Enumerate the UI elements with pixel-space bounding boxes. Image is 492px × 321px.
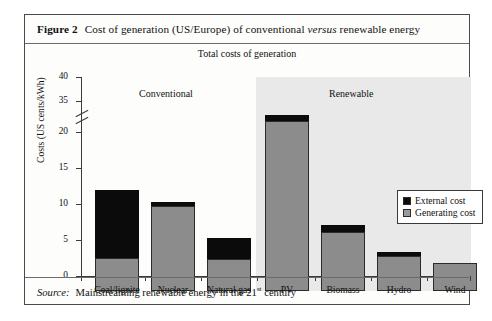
legend-label-generating-cost: Generating cost — [415, 207, 475, 219]
y-tick-label-5: 5 — [63, 234, 68, 244]
bar-natural-gas — [207, 238, 251, 291]
bar-segment-generating — [265, 121, 309, 291]
y-tick-label-20: 20 — [59, 126, 68, 136]
x-label-biomass: Biomass — [326, 284, 359, 295]
group-label-renewable: Renewable — [329, 88, 373, 99]
y-tick-label-35: 35 — [59, 95, 68, 105]
legend-swatch-generating-icon — [403, 209, 411, 217]
y-tick-label-0: 0 — [63, 270, 68, 280]
bar-segment-generating — [151, 206, 195, 291]
y-tick-10: 10 — [76, 204, 81, 205]
y-axis-title: Costs (US cents/kWh) — [35, 77, 46, 163]
y-tick-label-15: 15 — [59, 162, 68, 172]
legend-item-generating-cost: Generating cost — [403, 207, 475, 219]
bar-segment-generating — [321, 232, 365, 291]
bar-segment-external — [207, 238, 251, 260]
x-tick-7 — [470, 276, 471, 281]
bar-coal-lignite — [95, 190, 139, 292]
bar-segment-external — [265, 115, 309, 121]
chart-area: Total costs of generation 0 5 10 15 20 3… — [25, 44, 469, 276]
bar-segment-external — [95, 190, 139, 258]
bar-segment-external — [377, 252, 421, 256]
caption-text-post: renewable energy — [337, 23, 421, 35]
bar-segment-external — [321, 225, 365, 232]
chart-title: Total costs of generation — [25, 48, 469, 59]
legend-swatch-external-icon — [403, 197, 411, 205]
caption-text-emphasis: versus — [308, 23, 337, 35]
x-label-wind: Wind — [445, 284, 466, 295]
x-label-hydro: Hydro — [387, 284, 412, 295]
figure-caption: Figure 2Cost of generation (US/Europe) o… — [37, 23, 461, 35]
source-divider — [25, 277, 469, 278]
bar-biomass — [321, 225, 365, 291]
bar-segment-external — [151, 202, 195, 206]
y-axis-line — [81, 77, 82, 276]
y-tick-5: 5 — [76, 240, 81, 241]
y-axis-break-icon — [75, 110, 89, 124]
legend-label-external-cost: External cost — [415, 195, 465, 207]
legend-item-external-cost: External cost — [403, 195, 475, 207]
y-tick-label-10: 10 — [59, 198, 68, 208]
figure-label: Figure 2 — [37, 23, 78, 35]
bar-pv — [265, 115, 309, 291]
caption-text-pre: Cost of generation (US/Europe) of conven… — [85, 23, 308, 35]
y-tick-20: 20 — [76, 132, 81, 133]
chart-legend: External cost Generating cost — [397, 190, 483, 224]
y-tick-label-40: 40 — [59, 71, 68, 81]
group-label-conventional: Conventional — [139, 88, 193, 99]
y-tick-15: 15 — [76, 168, 81, 169]
plot-region: 0 5 10 15 20 35 40 Costs (US cents/kWh) … — [81, 77, 471, 291]
source-line: Source:Mainstreaming renewable energy in… — [37, 285, 296, 298]
figure-container: Figure 2Cost of generation (US/Europe) o… — [24, 14, 470, 305]
source-text-post: century — [262, 287, 296, 298]
y-tick-35: 35 — [76, 101, 81, 102]
source-label: Source: — [37, 287, 70, 298]
source-text-pre: Mainstreaming renewable energy in the 21 — [76, 287, 257, 298]
y-tick-40: 40 — [76, 77, 81, 78]
